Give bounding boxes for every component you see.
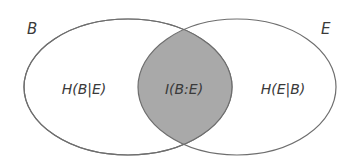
set-e-label: E	[321, 20, 331, 38]
venn-diagram: B E H(B|E) I(B:E) H(E|B)	[0, 0, 352, 164]
conditional-entropy-e-label: H(E|B)	[261, 81, 306, 98]
set-b-label: B	[27, 20, 37, 38]
conditional-entropy-b-label: H(B|E)	[62, 81, 107, 98]
mutual-information-label: I(B:E)	[165, 81, 203, 97]
